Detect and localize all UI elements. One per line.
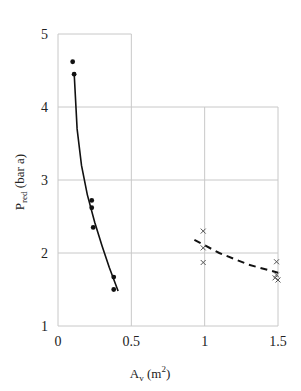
- y-tick-label: 5: [41, 27, 48, 42]
- y-tick-label: 3: [41, 173, 48, 188]
- dot-marker: [111, 287, 116, 292]
- dot-marker: [91, 225, 96, 230]
- x-tick-label: 0: [55, 334, 62, 349]
- chart: 1234500.511.5 Av (m2) Pred (bar a): [0, 0, 301, 391]
- y-tick-label: 1: [41, 319, 48, 334]
- dot-marker: [70, 59, 75, 64]
- dot-marker: [111, 275, 116, 280]
- filled-dots-fit-curve: [74, 72, 118, 291]
- grid: [58, 34, 278, 326]
- x-tick-label: 1.5: [269, 334, 287, 349]
- x-tick-label: 0.5: [123, 334, 141, 349]
- y-axis-label: Pred (bar a): [12, 154, 29, 210]
- y-tick-label: 2: [41, 246, 48, 261]
- x-axis-label: Av (m2): [130, 364, 170, 383]
- tick-labels: 1234500.511.5: [41, 27, 287, 349]
- y-tick-label: 4: [41, 100, 48, 115]
- data-points: [70, 59, 280, 292]
- dot-marker: [72, 72, 77, 77]
- fit-curves: [74, 72, 278, 291]
- dot-marker: [89, 198, 94, 203]
- dot-marker: [89, 205, 94, 210]
- x-tick-label: 1: [201, 334, 208, 349]
- crosses-fit-curve: [194, 240, 278, 273]
